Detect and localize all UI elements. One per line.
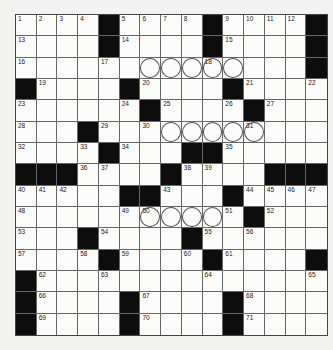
grid-cell[interactable] — [286, 58, 307, 79]
grid-cell[interactable] — [203, 314, 224, 335]
grid-cell[interactable] — [182, 58, 203, 79]
grid-cell[interactable]: 8 — [182, 15, 203, 36]
grid-cell[interactable] — [286, 207, 307, 228]
grid-cell[interactable] — [78, 79, 99, 100]
grid-cell[interactable]: 41 — [37, 186, 58, 207]
grid-cell[interactable] — [161, 58, 182, 79]
grid-cell[interactable]: 69 — [37, 314, 58, 335]
grid-cell[interactable]: 51 — [223, 207, 244, 228]
grid-cell[interactable]: 42 — [57, 186, 78, 207]
grid-cell[interactable]: 67 — [140, 292, 161, 313]
grid-cell[interactable] — [120, 58, 141, 79]
grid-cell[interactable] — [140, 250, 161, 271]
grid-cell[interactable]: 14 — [120, 36, 141, 57]
grid-cell[interactable] — [140, 143, 161, 164]
grid-cell[interactable] — [182, 207, 203, 228]
grid-cell[interactable] — [37, 250, 58, 271]
grid-cell[interactable] — [99, 207, 120, 228]
grid-cell[interactable] — [286, 143, 307, 164]
grid-cell[interactable] — [265, 228, 286, 249]
grid-cell[interactable] — [78, 58, 99, 79]
grid-cell[interactable]: 57 — [16, 250, 37, 271]
grid-cell[interactable] — [182, 292, 203, 313]
grid-cell[interactable] — [286, 250, 307, 271]
grid-cell[interactable]: 32 — [16, 143, 37, 164]
grid-cell[interactable] — [57, 207, 78, 228]
grid-cell[interactable]: 43 — [161, 186, 182, 207]
grid-cell[interactable]: 68 — [244, 292, 265, 313]
grid-cell[interactable] — [203, 207, 224, 228]
grid-cell[interactable]: 65 — [306, 271, 327, 292]
grid-cell[interactable]: 22 — [306, 79, 327, 100]
grid-cell[interactable]: 28 — [16, 122, 37, 143]
grid-cell[interactable] — [57, 122, 78, 143]
grid-cell[interactable] — [286, 314, 307, 335]
grid-cell[interactable] — [203, 292, 224, 313]
grid-cell[interactable] — [57, 100, 78, 121]
grid-cell[interactable] — [306, 207, 327, 228]
grid-cell[interactable]: 34 — [120, 143, 141, 164]
grid-cell[interactable] — [37, 207, 58, 228]
grid-cell[interactable]: 66 — [37, 292, 58, 313]
grid-cell[interactable] — [78, 207, 99, 228]
grid-cell[interactable] — [306, 100, 327, 121]
grid-cell[interactable]: 4 — [78, 15, 99, 36]
grid-cell[interactable] — [161, 292, 182, 313]
grid-cell[interactable]: 9 — [223, 15, 244, 36]
grid-cell[interactable] — [57, 228, 78, 249]
grid-cell[interactable] — [140, 271, 161, 292]
grid-cell[interactable] — [182, 186, 203, 207]
grid-cell[interactable]: 16 — [16, 58, 37, 79]
grid-cell[interactable]: 47 — [306, 186, 327, 207]
grid-cell[interactable]: 20 — [140, 79, 161, 100]
grid-cell[interactable] — [306, 228, 327, 249]
grid-cell[interactable] — [265, 122, 286, 143]
grid-cell[interactable] — [306, 143, 327, 164]
grid-cell[interactable]: 25 — [161, 100, 182, 121]
grid-cell[interactable] — [99, 79, 120, 100]
grid-cell[interactable]: 2 — [37, 15, 58, 36]
grid-cell[interactable]: 12 — [286, 15, 307, 36]
grid-cell[interactable]: 63 — [99, 271, 120, 292]
grid-cell[interactable]: 11 — [265, 15, 286, 36]
grid-cell[interactable] — [78, 292, 99, 313]
grid-cell[interactable]: 61 — [223, 250, 244, 271]
grid-cell[interactable]: 33 — [78, 143, 99, 164]
grid-cell[interactable]: 52 — [265, 207, 286, 228]
grid-cell[interactable] — [286, 36, 307, 57]
grid-cell[interactable] — [161, 79, 182, 100]
grid-cell[interactable] — [265, 58, 286, 79]
grid-cell[interactable]: 6 — [140, 15, 161, 36]
grid-cell[interactable] — [286, 271, 307, 292]
grid-cell[interactable] — [57, 314, 78, 335]
grid-cell[interactable] — [140, 58, 161, 79]
grid-cell[interactable]: 36 — [78, 164, 99, 185]
grid-cell[interactable]: 59 — [120, 250, 141, 271]
grid-cell[interactable]: 24 — [120, 100, 141, 121]
grid-cell[interactable] — [78, 36, 99, 57]
grid-cell[interactable] — [306, 292, 327, 313]
grid-cell[interactable] — [99, 186, 120, 207]
grid-cell[interactable]: 21 — [244, 79, 265, 100]
grid-cell[interactable] — [120, 164, 141, 185]
grid-cell[interactable] — [286, 228, 307, 249]
grid-cell[interactable]: 54 — [99, 228, 120, 249]
grid-cell[interactable]: 38 — [182, 164, 203, 185]
grid-cell[interactable] — [203, 122, 224, 143]
grid-cell[interactable] — [306, 122, 327, 143]
grid-cell[interactable]: 60 — [182, 250, 203, 271]
grid-cell[interactable] — [244, 58, 265, 79]
grid-cell[interactable] — [203, 79, 224, 100]
grid-cell[interactable] — [161, 143, 182, 164]
grid-cell[interactable]: 15 — [223, 36, 244, 57]
grid-cell[interactable] — [57, 58, 78, 79]
grid-cell[interactable] — [78, 100, 99, 121]
grid-cell[interactable] — [265, 250, 286, 271]
grid-cell[interactable]: 5 — [120, 15, 141, 36]
grid-cell[interactable] — [182, 314, 203, 335]
grid-cell[interactable] — [244, 250, 265, 271]
grid-cell[interactable]: 27 — [265, 100, 286, 121]
grid-cell[interactable] — [140, 228, 161, 249]
grid-cell[interactable] — [182, 271, 203, 292]
grid-cell[interactable]: 70 — [140, 314, 161, 335]
